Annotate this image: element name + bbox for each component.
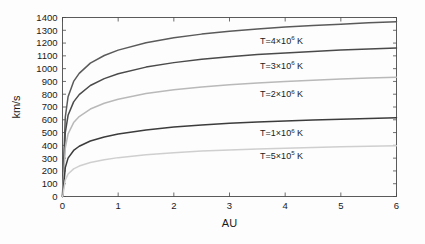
plot-frame [63,18,397,197]
y-tick-label: 900 [42,76,58,87]
y-tick-label: 300 [42,153,58,164]
curve-label-5: T=5×105 K [260,149,303,160]
y-tick-label: 1000 [36,63,57,74]
y-tick-label: 500 [42,127,58,138]
y-tick-label: 200 [42,165,58,176]
x-tick-label: 4 [283,200,288,211]
x-tick-label: 3 [227,200,232,211]
solar-wind-velocity-chart: 0100200300400500600700800900100011001200… [0,0,425,244]
x-tick-label: 0 [60,200,65,211]
y-axis-title: km/s [10,95,22,119]
y-tick-label: 600 [42,114,58,125]
chart-figure: 0100200300400500600700800900100011001200… [0,0,425,244]
y-tick-label: 700 [42,101,58,112]
curve-series-1 [63,22,397,197]
y-tick-label: 400 [42,140,58,151]
curve-label-1: T=4×106 K [260,34,303,45]
y-tick-label: 1100 [37,50,57,61]
y-tick-label: 0 [52,191,57,202]
curve-label-3: T=2×106 K [260,88,303,99]
curve-series-4 [63,118,397,197]
x-tick-label: 1 [116,200,121,211]
x-tick-label: 2 [171,200,176,211]
curve-label-2: T=3×106 K [260,59,303,70]
y-tick-label: 1200 [36,37,57,48]
x-tick-label: 5 [338,200,343,211]
y-tick-label: 1300 [36,25,57,36]
x-axis-ticks: 0123456 [60,18,399,211]
plot-frame-rect [63,18,397,197]
x-tick-label: 6 [394,200,399,211]
y-tick-label: 800 [42,89,58,100]
y-tick-label: 100 [42,178,58,189]
curve-label-4: T=1×106 K [260,127,303,138]
curve-series-3 [63,77,397,196]
y-axis-ticks: 0100200300400500600700800900100011001200… [36,12,396,202]
curve-series-5 [63,146,397,197]
data-curves [63,22,397,197]
curve-series-2 [63,48,397,197]
x-axis-title: AU [222,217,237,229]
y-tick-label: 1400 [36,12,57,23]
